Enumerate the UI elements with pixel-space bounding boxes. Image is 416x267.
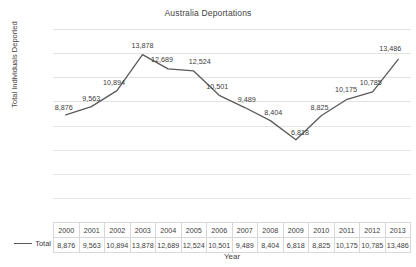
table-cell-value: 12,524: [181, 238, 207, 253]
table-cell-year: 2005: [181, 223, 207, 238]
legend-line-swatch: [14, 243, 32, 245]
table-cell-value: 8,876: [54, 238, 80, 253]
table-cell-value: 8,404: [258, 238, 284, 253]
data-table: 2000200120022003200420052006200720082009…: [53, 222, 411, 253]
legend-total: Total: [0, 236, 51, 251]
table-cell-year: 2003: [130, 223, 156, 238]
table-cell-year: 2007: [232, 223, 258, 238]
table-cell-value: 10,894: [105, 238, 131, 253]
table-cell-year: 2000: [54, 223, 80, 238]
data-point-label: 10,894: [103, 78, 125, 87]
legend-label: Total: [35, 239, 51, 248]
data-point-label: 12,524: [189, 57, 211, 66]
table-row-total: 8,8769,56310,89413,87812,68912,52410,501…: [54, 238, 411, 253]
table-cell-value: 13,878: [130, 238, 156, 253]
table-cell-value: 10,501: [207, 238, 233, 253]
data-point-label: 9,489: [238, 95, 256, 104]
table-cell-value: 9,563: [79, 238, 105, 253]
x-axis-title: Year: [53, 252, 411, 261]
table-cell-value: 13,486: [385, 238, 411, 253]
data-table-wrapper: Total 2000200120022003200420052006200720…: [0, 222, 416, 252]
table-cell-year: 2002: [105, 223, 131, 238]
line-series-total: [53, 29, 411, 222]
data-point-label: 8,825: [311, 103, 329, 112]
data-point-label: 13,878: [132, 41, 154, 50]
table-cell-year: 2008: [258, 223, 284, 238]
data-point-label: 10,501: [206, 82, 228, 91]
table-cell-value: 9,489: [232, 238, 258, 253]
table-cell-value: 6,818: [283, 238, 309, 253]
table-cell-year: 2012: [360, 223, 386, 238]
table-cell-value: 8,825: [309, 238, 335, 253]
table-row-years: 2000200120022003200420052006200720082009…: [54, 223, 411, 238]
data-point-label: 10,785: [360, 78, 382, 87]
data-point-label: 10,175: [335, 85, 357, 94]
y-axis-title: Total Individuals Deported: [10, 0, 19, 145]
table-cell-year: 2004: [156, 223, 182, 238]
data-point-label: 8,404: [264, 108, 282, 117]
table-cell-year: 2009: [283, 223, 309, 238]
table-cell-value: 12,689: [156, 238, 182, 253]
plot-area: 16,00014,00012,00010,0008,0006,0004,0002…: [53, 29, 411, 222]
data-point-label: 12,689: [151, 55, 173, 64]
data-point-label: 8,876: [55, 103, 73, 112]
table-cell-year: 2011: [334, 223, 360, 238]
chart-container: Australia Deportations Total Individuals…: [0, 0, 416, 267]
data-point-label: 13,486: [379, 44, 401, 53]
table-cell-year: 2010: [309, 223, 335, 238]
table-cell-year: 2001: [79, 223, 105, 238]
chart-title: Australia Deportations: [0, 8, 416, 18]
table-cell-value: 10,175: [334, 238, 360, 253]
table-cell-value: 10,785: [360, 238, 386, 253]
data-point-label: 6,818: [291, 128, 309, 137]
table-cell-year: 2013: [385, 223, 411, 238]
data-point-label: 9,563: [82, 94, 100, 103]
table-cell-year: 2006: [207, 223, 233, 238]
